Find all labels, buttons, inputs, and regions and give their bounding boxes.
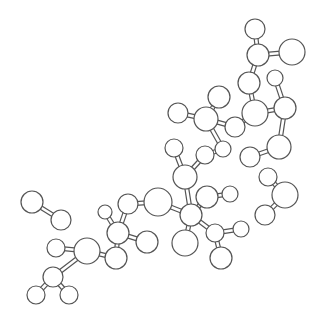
atom: [272, 182, 298, 208]
atom: [245, 19, 265, 39]
atom: [98, 205, 112, 219]
atom: [173, 165, 197, 189]
atom: [206, 224, 224, 242]
atom: [105, 247, 127, 269]
atom: [118, 194, 138, 214]
atom: [144, 188, 172, 216]
atom: [222, 186, 238, 202]
atom: [208, 86, 230, 108]
atom: [43, 267, 63, 287]
atom: [196, 146, 214, 164]
atom: [172, 230, 198, 256]
atom: [274, 97, 296, 119]
atom: [259, 168, 277, 186]
molecule-canvas: [0, 0, 324, 324]
atom: [107, 222, 129, 244]
atom: [215, 141, 231, 157]
atom: [238, 72, 260, 94]
atom: [180, 204, 202, 226]
atom: [225, 117, 245, 137]
atom: [21, 191, 43, 213]
atom: [168, 103, 188, 123]
atom: [47, 239, 65, 257]
atom: [240, 147, 260, 167]
atom: [267, 135, 291, 159]
atom: [165, 139, 183, 157]
atom: [242, 100, 268, 126]
atom: [136, 231, 158, 253]
atom: [247, 44, 269, 66]
atom: [255, 205, 275, 225]
molecule-diagram: [0, 0, 324, 324]
atom: [279, 39, 305, 65]
atom: [267, 70, 283, 86]
atom: [233, 221, 249, 237]
atom: [74, 238, 100, 264]
atom: [210, 247, 232, 269]
atom: [194, 107, 218, 131]
atom: [51, 210, 71, 230]
atom: [196, 186, 218, 208]
atom: [60, 286, 78, 304]
atom-layer: [21, 19, 305, 304]
atom: [27, 286, 45, 304]
